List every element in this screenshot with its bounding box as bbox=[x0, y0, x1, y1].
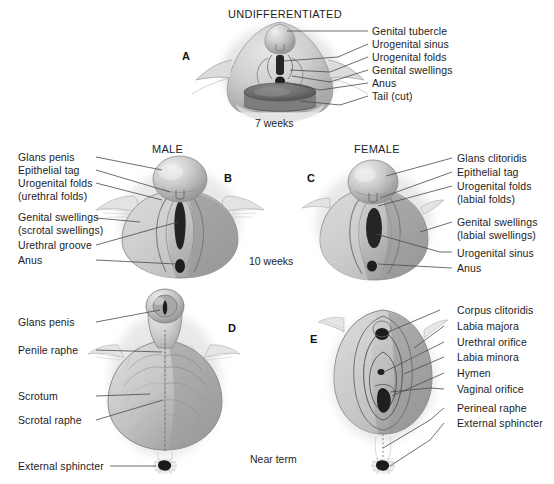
label-urogenital-sinus-a: Urogenital sinus bbox=[372, 38, 449, 51]
label-urethral-folds-b: (urethral folds) bbox=[18, 190, 87, 203]
panel-d-letter: D bbox=[228, 322, 236, 334]
label-glans-penis-b: Glans penis bbox=[18, 151, 75, 164]
label-external-sphincter-e: External sphincter bbox=[457, 417, 543, 430]
stage-10-weeks: 10 weeks bbox=[249, 255, 293, 267]
panel-a-letter: A bbox=[182, 50, 190, 62]
label-labia-majora: Labia majora bbox=[457, 320, 519, 333]
panel-c-title: FEMALE bbox=[354, 143, 400, 155]
label-anus-b: Anus bbox=[18, 254, 42, 267]
label-urogenital-sinus-c: Urogenital sinus bbox=[457, 247, 534, 260]
label-glans-clitoridis: Glans clitoridis bbox=[457, 152, 527, 165]
label-genital-tubercle: Genital tubercle bbox=[372, 25, 447, 38]
label-urogenital-folds-c: Urogenital folds bbox=[457, 180, 532, 193]
label-anus-c: Anus bbox=[457, 262, 481, 275]
label-glans-penis-d: Glans penis bbox=[18, 316, 75, 329]
label-scrotum: Scrotum bbox=[18, 390, 58, 403]
label-vaginal-orifice: Vaginal orifice bbox=[457, 383, 524, 396]
label-scrotal-swellings-b: (scrotal swellings) bbox=[18, 224, 103, 237]
label-genital-swellings-c: Genital swellings bbox=[457, 216, 538, 229]
label-epithelial-tag-b: Epithelial tag bbox=[18, 164, 80, 177]
label-labial-folds-c: (labial folds) bbox=[457, 193, 515, 206]
stage-near-term: Near term bbox=[250, 453, 297, 465]
label-urogenital-folds-b: Urogenital folds bbox=[18, 177, 93, 190]
label-anus-a: Anus bbox=[372, 77, 396, 90]
label-urogenital-folds-a: Urogenital folds bbox=[372, 51, 447, 64]
label-tail-cut: Tail (cut) bbox=[372, 90, 413, 103]
label-labial-swellings-c: (labial swellings) bbox=[457, 229, 536, 242]
panel-b-title: MALE bbox=[152, 143, 183, 155]
label-urethral-orifice: Urethral orifice bbox=[457, 336, 527, 349]
label-perineal-raphe: Perineal raphe bbox=[457, 402, 527, 415]
label-genital-swellings-a: Genital swellings bbox=[372, 64, 453, 77]
stage-7-weeks: 7 weeks bbox=[255, 117, 294, 129]
label-genital-swellings-b: Genital swellings bbox=[18, 211, 99, 224]
label-hymen: Hymen bbox=[457, 367, 491, 380]
label-external-sphincter-d: External sphincter bbox=[18, 460, 104, 473]
panel-c-letter: C bbox=[307, 172, 315, 184]
label-scrotal-raphe: Scrotal raphe bbox=[18, 414, 82, 427]
label-labia-minora: Labia minora bbox=[457, 351, 519, 364]
panel-e-illustration bbox=[318, 310, 448, 474]
panel-b-illustration bbox=[96, 156, 264, 278]
label-urethral-groove: Urethral groove bbox=[18, 239, 92, 252]
label-epithelial-tag-c: Epithelial tag bbox=[457, 166, 519, 179]
label-penile-raphe: Penile raphe bbox=[18, 344, 78, 357]
panel-a-illustration bbox=[192, 22, 368, 122]
label-corpus-clitoridis: Corpus clitoridis bbox=[457, 304, 533, 317]
panel-c-illustration bbox=[302, 160, 444, 280]
panel-b-letter: B bbox=[224, 172, 232, 184]
panel-e-letter: E bbox=[310, 333, 317, 345]
panel-d-illustration bbox=[88, 289, 240, 474]
panel-a-title: UNDIFFERENTIATED bbox=[228, 8, 342, 20]
